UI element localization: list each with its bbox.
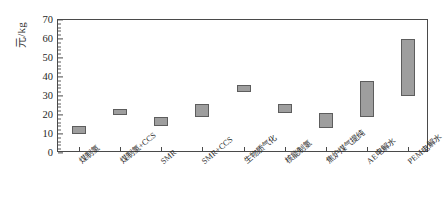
x-axis-tick (161, 147, 162, 151)
x-axis-tick (244, 147, 245, 151)
y-axis-tick (58, 152, 63, 153)
y-axis-tick-label: 30 (43, 91, 54, 102)
y-axis-minor-tick (58, 54, 61, 55)
range-bar (195, 104, 209, 117)
y-axis-minor-tick (58, 84, 61, 85)
y-axis-minor-tick (58, 111, 61, 112)
y-axis-minor-tick (58, 145, 61, 146)
range-bar (237, 85, 251, 93)
range-bar (72, 126, 86, 134)
range-bar (319, 113, 333, 128)
y-axis-tick-label: 40 (43, 72, 54, 83)
y-axis-minor-tick (58, 69, 61, 70)
y-axis-minor-tick (58, 50, 61, 51)
y-axis-minor-tick (58, 126, 61, 127)
range-bar (154, 117, 168, 127)
x-axis-tick (285, 147, 286, 151)
y-axis-minor-tick (58, 35, 61, 36)
y-axis-tick (58, 38, 63, 39)
y-axis-minor-tick (58, 65, 61, 66)
y-axis-minor-tick (58, 27, 61, 28)
range-bar (278, 104, 292, 114)
y-axis-tick-label: 0 (48, 148, 53, 159)
plot-frame: 010203040506070 (57, 19, 428, 152)
y-axis-minor-tick (58, 118, 61, 119)
y-axis-tick-label: 50 (43, 53, 54, 64)
y-axis-tick-label: 60 (43, 34, 54, 45)
y-axis-minor-tick (58, 141, 61, 142)
y-axis-tick (58, 95, 63, 96)
y-axis-minor-tick (58, 80, 61, 81)
y-axis-minor-tick (58, 31, 61, 32)
range-bar (401, 39, 415, 96)
y-axis-minor-tick (58, 103, 61, 104)
y-axis-minor-tick (58, 149, 61, 150)
y-axis-minor-tick (58, 88, 61, 89)
y-axis-minor-tick (58, 46, 61, 47)
plot-area: 010203040506070 (58, 20, 427, 151)
y-axis-minor-tick (58, 99, 61, 100)
x-axis-tick (326, 147, 327, 151)
x-axis-tick (367, 147, 368, 151)
y-axis-minor-tick (58, 42, 61, 43)
y-axis-tick (58, 57, 63, 58)
y-axis-tick (58, 19, 63, 20)
y-axis-minor-tick (58, 107, 61, 108)
y-axis-minor-tick (58, 92, 61, 93)
y-axis-minor-tick (58, 61, 61, 62)
y-axis-minor-tick (58, 23, 61, 24)
x-axis-tick (408, 147, 409, 151)
x-axis-tick (120, 147, 121, 151)
y-axis-tick-label: 10 (43, 129, 54, 140)
y-axis-title: 元/kg (14, 0, 28, 70)
chart-figure: 元/kg 010203040506070 煤制氢煤制氢+CCSSMRSMR+CC… (0, 0, 448, 224)
range-bar (113, 109, 127, 115)
y-axis-minor-tick (58, 137, 61, 138)
x-axis-tick (202, 147, 203, 151)
y-axis-minor-tick (58, 73, 61, 74)
y-axis-minor-tick (58, 130, 61, 131)
y-axis-minor-tick (58, 122, 61, 123)
y-axis-tick (58, 114, 63, 115)
y-axis-tick-label: 20 (43, 110, 54, 121)
y-axis-tick (58, 76, 63, 77)
x-axis-tick (79, 147, 80, 151)
y-axis-tick-label: 70 (43, 15, 54, 26)
range-bar (360, 81, 374, 117)
y-axis-tick (58, 133, 63, 134)
